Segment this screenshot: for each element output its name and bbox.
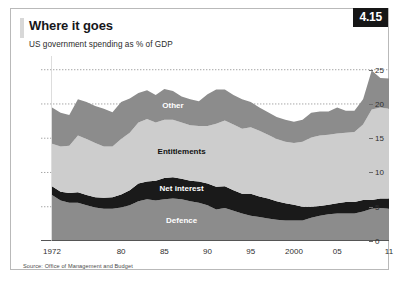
- y-tick-mark: [369, 207, 373, 208]
- source-note: Source: Office of Management and Budget: [23, 263, 133, 269]
- y-tick-mark: [369, 138, 373, 139]
- band-label-entitlements: Entitlements: [158, 147, 207, 156]
- y-tick-mark: [369, 104, 373, 105]
- x-tick-label: 95: [246, 247, 255, 256]
- chart-plot-area: OtherEntitlementsNet interestDefence: [41, 56, 389, 241]
- band-label-net-interest: Net interest: [160, 184, 204, 193]
- x-tick-label: 2000: [285, 247, 303, 256]
- y-tick-label: 5: [375, 202, 379, 211]
- band-label-other: Other: [162, 101, 183, 110]
- y-tick-mark: [369, 172, 373, 173]
- title-accent-bar: [20, 18, 24, 38]
- x-tick-label: 1972: [43, 247, 61, 256]
- page-title: Where it goes: [29, 18, 113, 34]
- y-axis-labels: 0510152025: [369, 56, 391, 241]
- x-tick-label: 11: [385, 247, 393, 256]
- stacked-area-chart: OtherEntitlementsNet interestDefence: [41, 56, 389, 241]
- chart-subtitle: US government spending as % of GDP: [29, 39, 173, 50]
- y-tick-mark: [369, 70, 373, 71]
- y-tick-label: 15: [375, 134, 384, 143]
- y-tick-label: 25: [375, 65, 384, 74]
- x-tick-label: 85: [160, 247, 169, 256]
- figure-number-badge: 4.15: [353, 8, 388, 27]
- band-label-defence: Defence: [166, 216, 198, 225]
- y-tick-label: 0: [375, 237, 379, 246]
- y-tick-label: 20: [375, 99, 384, 108]
- x-tick-label: 90: [203, 247, 212, 256]
- x-tick-label: 05: [333, 247, 342, 256]
- y-tick-label: 10: [375, 168, 384, 177]
- x-axis-labels: 19728085909520000511: [11, 247, 390, 261]
- y-tick-mark: [369, 241, 373, 242]
- x-tick-label: 80: [117, 247, 126, 256]
- figure-card: Where it goes US government spending as …: [10, 8, 389, 270]
